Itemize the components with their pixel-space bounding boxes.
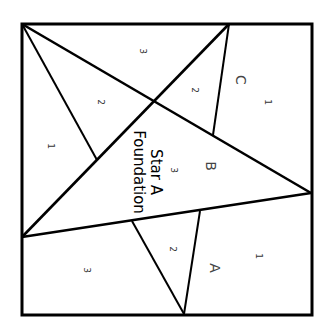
piece-c1: 1 (263, 99, 273, 105)
section-label-c: C (233, 75, 249, 85)
piece-b1: 1 (46, 143, 56, 149)
foundation-title: Star A Foundation (130, 130, 165, 214)
piece-b3: 3 (169, 167, 179, 173)
piece-a1: 1 (254, 253, 264, 259)
section-label-b: B (203, 161, 219, 171)
star-outline (22, 24, 311, 237)
section-label-a: A (207, 263, 223, 273)
piece-a3: 3 (82, 267, 92, 273)
title-line-1: Star A (147, 149, 165, 196)
piece-a2: 2 (168, 246, 178, 252)
seam-lines (22, 24, 229, 314)
piece-b2: 2 (96, 99, 106, 105)
title-line-2: Foundation (130, 130, 148, 214)
piece-c2: 2 (190, 87, 200, 93)
star-a-foundation-diagram: C B A 1 2 3 1 2 3 1 2 3 Star A Foundatio… (0, 0, 331, 336)
piece-c3: 3 (138, 48, 148, 54)
